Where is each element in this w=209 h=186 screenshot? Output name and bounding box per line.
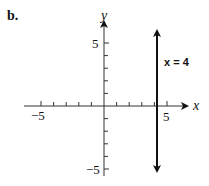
coordinate-plane: −5 5 5 −5 x y x = 4 (0, 0, 209, 186)
line-label: x = 4 (164, 56, 190, 68)
x-tick-label-5: 5 (163, 109, 170, 124)
y-tick-label-5: 5 (92, 36, 99, 51)
y-tick-label-neg5: −5 (86, 162, 100, 177)
x-axis-label: x (192, 98, 200, 113)
x-tick-label-neg5: −5 (31, 108, 45, 123)
y-axis-label: y (99, 8, 108, 23)
